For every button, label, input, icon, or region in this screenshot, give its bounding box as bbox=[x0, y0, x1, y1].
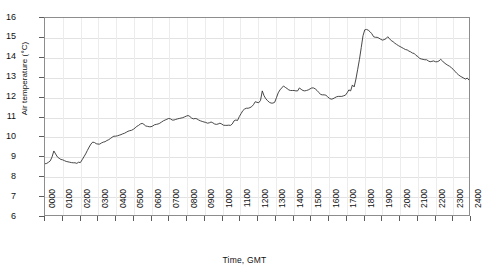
y-axis-tick-label: 10 bbox=[0, 132, 16, 141]
x-axis-tick-mark bbox=[97, 216, 98, 221]
x-axis-tick-label: 2000 bbox=[403, 189, 412, 223]
x-axis-tick-mark bbox=[417, 216, 418, 221]
y-axis-tick-label: 8 bbox=[0, 172, 16, 181]
x-axis-tick-label: 0200 bbox=[83, 189, 92, 223]
x-axis-tick-mark bbox=[80, 216, 81, 221]
x-axis-tick-label: 0000 bbox=[48, 189, 57, 223]
x-axis-tick-mark bbox=[168, 216, 169, 221]
y-axis-tick-label: 15 bbox=[0, 32, 16, 41]
x-axis-tick-mark bbox=[239, 216, 240, 221]
x-axis-tick-mark bbox=[204, 216, 205, 221]
x-axis-tick-label: 1500 bbox=[314, 189, 323, 223]
x-axis-tick-mark bbox=[257, 216, 258, 221]
x-axis-tick-mark bbox=[399, 216, 400, 221]
y-axis-tick-label: 11 bbox=[0, 112, 16, 121]
x-axis-tick-label: 0300 bbox=[101, 189, 110, 223]
x-axis-tick-mark bbox=[346, 216, 347, 221]
x-axis-tick-label: 0500 bbox=[136, 189, 145, 223]
x-axis-tick-label: 2400 bbox=[474, 189, 483, 223]
x-axis-tick-mark bbox=[222, 216, 223, 221]
x-axis-tick-mark bbox=[293, 216, 294, 221]
x-axis-tick-mark bbox=[186, 216, 187, 221]
y-axis-tick-label: 6 bbox=[0, 212, 16, 221]
x-axis-tick-mark bbox=[62, 216, 63, 221]
plot-area bbox=[44, 17, 470, 216]
x-axis-tick-label: 1600 bbox=[332, 189, 341, 223]
x-axis-tick-mark bbox=[364, 216, 365, 221]
x-axis-tick-mark bbox=[452, 216, 453, 221]
x-axis-tick-label: 1400 bbox=[296, 189, 305, 223]
temperature-time-chart: Air temperature (°C) 678910111213141516 … bbox=[0, 0, 489, 270]
x-axis-tick-label: 2300 bbox=[456, 189, 465, 223]
x-axis-tick-label: 1700 bbox=[349, 189, 358, 223]
series-line-air-temperature bbox=[45, 18, 469, 215]
y-axis-tick-label: 9 bbox=[0, 152, 16, 161]
x-axis-tick-mark bbox=[470, 216, 471, 221]
y-axis-tick-label: 14 bbox=[0, 52, 16, 61]
y-axis-tick-label: 7 bbox=[0, 192, 16, 201]
x-axis-tick-label: 0400 bbox=[119, 189, 128, 223]
x-axis-tick-label: 1300 bbox=[278, 189, 287, 223]
x-axis-tick-label: 1900 bbox=[385, 189, 394, 223]
x-axis-tick-mark bbox=[328, 216, 329, 221]
x-axis-tick-label: 2200 bbox=[438, 189, 447, 223]
x-axis-tick-mark bbox=[151, 216, 152, 221]
x-axis-tick-mark bbox=[435, 216, 436, 221]
x-axis-tick-mark bbox=[381, 216, 382, 221]
x-axis-tick-label: 1000 bbox=[225, 189, 234, 223]
x-axis-title: Time, GMT bbox=[0, 255, 489, 265]
x-axis-tick-label: 1800 bbox=[367, 189, 376, 223]
x-axis-tick-mark bbox=[133, 216, 134, 221]
x-axis-tick-label: 0900 bbox=[207, 189, 216, 223]
x-axis-tick-label: 1100 bbox=[243, 189, 252, 223]
x-axis-tick-label: 0800 bbox=[190, 189, 199, 223]
y-axis-tick-label: 12 bbox=[0, 92, 16, 101]
x-axis-tick-mark bbox=[275, 216, 276, 221]
x-axis-tick-label: 1200 bbox=[261, 189, 270, 223]
y-axis-tick-label: 16 bbox=[0, 13, 16, 22]
y-axis-title: Air temperature (°C) bbox=[20, 9, 29, 149]
x-axis-tick-label: 2100 bbox=[420, 189, 429, 223]
x-axis-tick-label: 0700 bbox=[172, 189, 181, 223]
x-axis-tick-label: 0100 bbox=[65, 189, 74, 223]
y-axis-tick-label: 13 bbox=[0, 72, 16, 81]
x-axis-tick-mark bbox=[44, 216, 45, 221]
x-axis-tick-mark bbox=[310, 216, 311, 221]
x-axis-tick-label: 0600 bbox=[154, 189, 163, 223]
x-axis-tick-mark bbox=[115, 216, 116, 221]
